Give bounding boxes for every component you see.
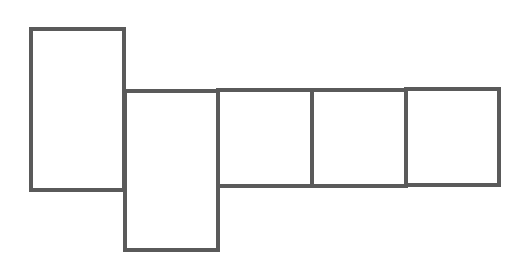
- net-face-5: [406, 89, 499, 185]
- net-face-3: [218, 90, 312, 186]
- net-face-2: [125, 91, 218, 250]
- net-face-1: [31, 29, 124, 190]
- cuboid-net-diagram: [0, 0, 522, 267]
- net-face-4: [312, 90, 406, 186]
- net-faces: [31, 29, 499, 250]
